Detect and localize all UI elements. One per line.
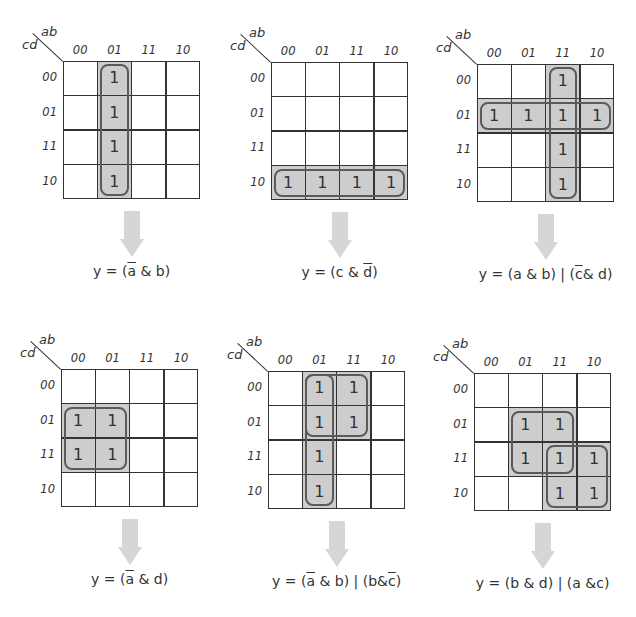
cell-value-one: 1 xyxy=(543,449,577,468)
cell-value-one: 1 xyxy=(508,415,542,434)
row-header: 00 xyxy=(440,382,468,396)
column-header: 11 xyxy=(543,355,577,369)
down-arrow-icon xyxy=(531,523,555,569)
equation-text: y = (b & d) | (a &c) xyxy=(476,575,610,591)
column-variables-label: ab xyxy=(452,336,468,351)
cell-value-one: 1 xyxy=(543,484,577,503)
boolean-equation: y = (b & d) | (a &c) xyxy=(443,575,636,591)
arrow-shaft xyxy=(535,523,551,551)
cell-value-one: 1 xyxy=(543,415,577,434)
column-header: 01 xyxy=(508,355,542,369)
cell-value-one: 1 xyxy=(577,449,611,468)
column-header: 00 xyxy=(474,355,508,369)
column-header: 10 xyxy=(577,355,611,369)
cell-value-one: 1 xyxy=(577,484,611,503)
arrow-head xyxy=(531,551,555,569)
row-header: 10 xyxy=(440,486,468,500)
cell-value-one: 1 xyxy=(508,449,542,468)
row-variables-label: cd xyxy=(433,349,448,364)
row-header: 01 xyxy=(440,417,468,431)
kmap-6: abcd00011110000111101111111y = (b & d) |… xyxy=(0,0,636,617)
row-header: 11 xyxy=(440,451,468,465)
